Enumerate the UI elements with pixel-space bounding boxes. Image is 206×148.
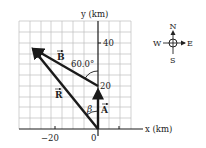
label-r: R — [55, 89, 63, 100]
compass-south: S — [170, 56, 175, 65]
compass-east: E — [187, 39, 193, 48]
vector-a-label: A — [100, 105, 109, 115]
label-a: A — [100, 104, 109, 115]
vector-b-label: B — [57, 52, 65, 62]
y-tick-label-40: 40 — [103, 38, 114, 48]
compass-west: W — [153, 39, 162, 48]
y-axis-label: y (km) — [80, 9, 108, 19]
y-tick-label-20: 20 — [100, 81, 111, 91]
grid — [19, 21, 131, 129]
angle-beta-label: β — [86, 104, 92, 114]
x-axis-label: x (km) — [145, 124, 172, 134]
label-b: B — [57, 51, 65, 62]
x-tick-label-neg20: −20 — [41, 133, 59, 143]
compass-icon: N S E W — [153, 22, 193, 65]
vector-r-label: R — [55, 90, 63, 100]
angle-60-label: 60.0° — [71, 59, 94, 69]
compass-north: N — [170, 22, 177, 31]
x-tick-label-0: 0 — [91, 133, 96, 143]
vector-diagram: y (km) x (km) −20 0 20 40 B R A 60.0° β … — [0, 0, 206, 148]
